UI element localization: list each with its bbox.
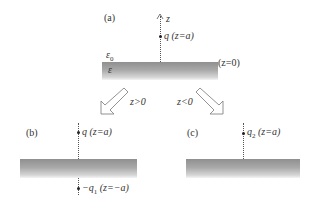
arrow-down-right-icon	[196, 88, 223, 114]
charge-q-dot	[159, 35, 162, 38]
dielectric-slab-a	[102, 62, 218, 80]
charge-q-label: q (z=a)	[164, 31, 194, 41]
panel-b-charge-label: q (z=a)	[82, 127, 112, 137]
z-axis-line	[160, 16, 161, 62]
panel-c-charge-label: q2 (z=a)	[247, 127, 280, 141]
z-axis-label: z	[166, 14, 170, 24]
dielectric-slab-c	[186, 159, 300, 178]
panel-b-charge-dot	[77, 131, 80, 134]
panel-b-label: (b)	[26, 128, 38, 138]
arrow-right-label: z<0	[177, 97, 193, 107]
panel-c-axis-line	[243, 123, 244, 159]
panel-c-label: (c)	[187, 128, 198, 138]
panel-c-charge-dot	[242, 132, 245, 135]
dielectric-slab-b	[20, 159, 137, 178]
image-charge-label: −q1 (z=−a)	[82, 183, 129, 197]
panel-a-label: (a)	[104, 13, 115, 23]
image-charge-symbol: −q	[82, 182, 94, 193]
interface-label: (z=0)	[218, 58, 240, 68]
charge-q2-position: (z=a)	[256, 126, 281, 137]
image-charge-dot	[77, 187, 80, 190]
arrow-down-left-icon	[101, 88, 128, 114]
image-charge-position: (z=−a)	[97, 182, 129, 193]
arrow-left-label: z>0	[130, 97, 146, 107]
epsilon-label: ε	[108, 65, 112, 75]
